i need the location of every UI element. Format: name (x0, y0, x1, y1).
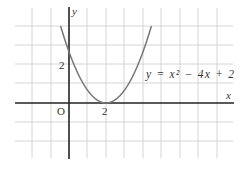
parabola-graph: y x O 2 2 y = x² − 4x + 2 (0, 0, 244, 169)
equation-label: y = x² − 4x + 2 (145, 68, 234, 81)
tick-y-2-label: 2 (59, 59, 65, 71)
x-axis-label: x (225, 89, 231, 101)
tick-x-2-label: 2 (102, 105, 108, 117)
y-axis-label: y (71, 5, 77, 17)
origin-label: O (57, 105, 65, 117)
grid (15, 8, 233, 158)
